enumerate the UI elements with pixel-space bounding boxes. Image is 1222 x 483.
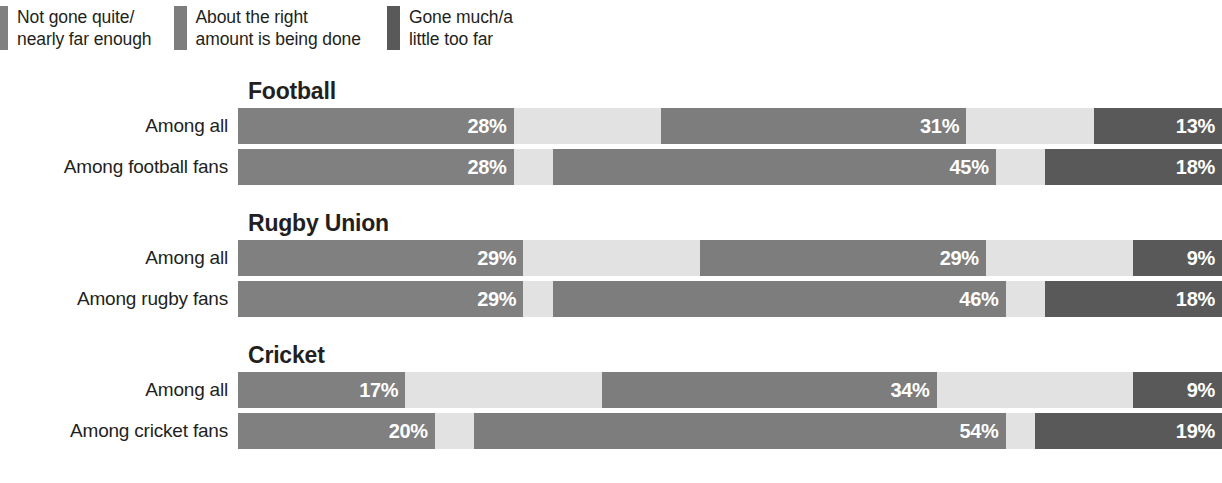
- bar-segment-value: 18%: [1176, 288, 1222, 311]
- bar-segment-value: 29%: [477, 288, 523, 311]
- bar-segment-not_far_enough: 17%: [238, 372, 405, 408]
- chart-section-cricket: CricketAmong all17%34%9%Among cricket fa…: [0, 340, 1222, 449]
- bar-segment-value: 28%: [467, 156, 513, 179]
- bar-segment-too_far: 13%: [1094, 108, 1222, 144]
- chart-row: Among rugby fans29%46%18%: [0, 281, 1222, 317]
- section-title: Football: [0, 76, 1222, 108]
- bar-segment-value: 31%: [920, 115, 966, 138]
- section-spacer: [0, 190, 1222, 208]
- legend-item-about_right: About the right amount is being done: [174, 6, 361, 50]
- chart-row: Among all17%34%9%: [0, 372, 1222, 408]
- bar-segment-not_far_enough: 29%: [238, 240, 523, 276]
- bar-segment-value: 17%: [359, 379, 405, 402]
- row-label: Among all: [0, 247, 238, 269]
- legend-label-not_far_enough: Not gone quite/ nearly far enough: [8, 6, 152, 50]
- row-label: Among football fans: [0, 156, 238, 178]
- legend-item-too_far: Gone much/a little too far: [387, 6, 513, 50]
- stacked-bar: 20%54%19%: [238, 413, 1222, 449]
- section-title: Cricket: [0, 340, 1222, 372]
- bar-segment-not_far_enough: 28%: [238, 149, 514, 185]
- bar-segment-value: 13%: [1176, 115, 1222, 138]
- chart-row: Among football fans28%45%18%: [0, 149, 1222, 185]
- bar-segment-neutral_gap: [514, 108, 662, 144]
- row-label: Among cricket fans: [0, 420, 238, 442]
- legend-label-about_right: About the right amount is being done: [187, 6, 361, 50]
- stacked-bar-chart: FootballAmong all28%31%13%Among football…: [0, 76, 1222, 454]
- bar-segment-neutral_gap: [523, 281, 553, 317]
- bar-segment-value: 9%: [1187, 379, 1222, 402]
- bar-segment-neutral_gap: [996, 149, 1045, 185]
- row-label: Among rugby fans: [0, 288, 238, 310]
- stacked-bar: 17%34%9%: [238, 372, 1222, 408]
- bar-segment-value: 20%: [389, 420, 435, 443]
- bar-segment-neutral_gap: [966, 108, 1094, 144]
- section-title: Rugby Union: [0, 208, 1222, 240]
- bar-segment-not_far_enough: 20%: [238, 413, 435, 449]
- bar-segment-neutral_gap: [986, 240, 1134, 276]
- bar-segment-neutral_gap: [514, 149, 553, 185]
- bar-segment-value: 46%: [959, 288, 1005, 311]
- bar-segment-not_far_enough: 29%: [238, 281, 523, 317]
- bar-segment-about_right: 31%: [661, 108, 966, 144]
- bar-segment-value: 19%: [1176, 420, 1222, 443]
- row-label: Among all: [0, 115, 238, 137]
- bar-segment-value: 45%: [950, 156, 996, 179]
- chart-row: Among all29%29%9%: [0, 240, 1222, 276]
- legend-swatch-not_far_enough: [0, 6, 8, 50]
- stacked-bar: 29%29%9%: [238, 240, 1222, 276]
- bar-segment-value: 54%: [959, 420, 1005, 443]
- row-label: Among all: [0, 379, 238, 401]
- chart-section-football: FootballAmong all28%31%13%Among football…: [0, 76, 1222, 185]
- chart-legend: Not gone quite/ nearly far enoughAbout t…: [0, 6, 513, 52]
- chart-row: Among all28%31%13%: [0, 108, 1222, 144]
- bar-segment-about_right: 34%: [602, 372, 937, 408]
- bar-segment-neutral_gap: [405, 372, 602, 408]
- legend-swatch-about_right: [174, 6, 187, 50]
- bar-segment-neutral_gap: [1006, 281, 1045, 317]
- bar-segment-neutral_gap: [523, 240, 700, 276]
- bar-segment-about_right: 46%: [553, 281, 1006, 317]
- bar-segment-neutral_gap: [435, 413, 474, 449]
- bar-segment-value: 18%: [1176, 156, 1222, 179]
- bar-segment-value: 29%: [940, 247, 986, 270]
- bar-segment-too_far: 9%: [1133, 240, 1222, 276]
- bar-segment-not_far_enough: 28%: [238, 108, 514, 144]
- legend-swatch-too_far: [387, 6, 400, 50]
- bar-segment-about_right: 29%: [700, 240, 985, 276]
- chart-section-rugby-union: Rugby UnionAmong all29%29%9%Among rugby …: [0, 208, 1222, 317]
- legend-item-not_far_enough: Not gone quite/ nearly far enough: [0, 6, 152, 50]
- bar-segment-too_far: 19%: [1035, 413, 1222, 449]
- bar-segment-too_far: 18%: [1045, 281, 1222, 317]
- bar-segment-about_right: 45%: [553, 149, 996, 185]
- bar-segment-value: 28%: [467, 115, 513, 138]
- bar-segment-value: 34%: [890, 379, 936, 402]
- stacked-bar: 28%45%18%: [238, 149, 1222, 185]
- bar-segment-neutral_gap: [937, 372, 1134, 408]
- stacked-bar: 29%46%18%: [238, 281, 1222, 317]
- section-spacer: [0, 322, 1222, 340]
- stacked-bar: 28%31%13%: [238, 108, 1222, 144]
- bar-segment-value: 29%: [477, 247, 523, 270]
- bar-segment-about_right: 54%: [474, 413, 1005, 449]
- chart-row: Among cricket fans20%54%19%: [0, 413, 1222, 449]
- bar-segment-too_far: 18%: [1045, 149, 1222, 185]
- bar-segment-value: 9%: [1187, 247, 1222, 270]
- bar-segment-too_far: 9%: [1133, 372, 1222, 408]
- bar-segment-neutral_gap: [1006, 413, 1036, 449]
- legend-label-too_far: Gone much/a little too far: [400, 6, 513, 50]
